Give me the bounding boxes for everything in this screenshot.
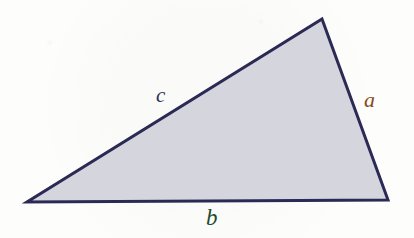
side-label-c: c — [156, 85, 165, 106]
side-label-a: a — [364, 89, 375, 111]
triangle-figure: a b c — [0, 0, 414, 238]
triangle-diagram — [0, 0, 414, 238]
triangle-shape — [27, 19, 388, 202]
side-label-b: b — [206, 206, 218, 229]
